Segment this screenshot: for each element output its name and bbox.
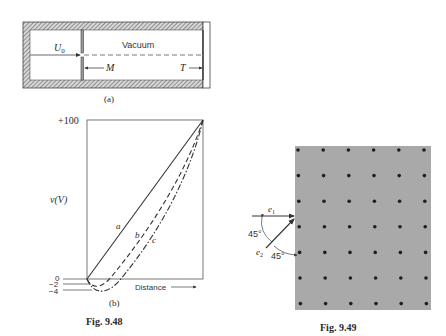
- lattice-atom: [399, 251, 403, 255]
- lattice-atom: [397, 174, 401, 178]
- lattice-atom: [372, 148, 376, 152]
- lattice-atom: [349, 302, 353, 306]
- lattice-atom: [297, 199, 301, 203]
- lattice-atom: [399, 276, 403, 280]
- lattice-atom: [398, 199, 402, 203]
- lattice-atom: [423, 174, 427, 178]
- lattice-atom: [348, 225, 352, 229]
- lattice-atom: [347, 199, 351, 203]
- lattice-atom: [424, 276, 428, 280]
- lattice-atom: [323, 276, 327, 280]
- fig-949-caption: Fig. 9.49: [320, 322, 356, 333]
- x-axis-label: Distance: [135, 283, 167, 292]
- lattice-atom: [297, 174, 301, 178]
- lattice-atom: [374, 302, 378, 306]
- lattice-atom: [298, 251, 302, 255]
- lattice-atom: [423, 199, 427, 203]
- curve-c-label: c: [152, 235, 156, 245]
- figure-canvas: U0 Vacuum M T (a) +100 v(V) 0 −2 −4 a b …: [0, 0, 446, 336]
- beam-e2-arrow-icon: [266, 219, 294, 248]
- mesh-lower: [81, 57, 84, 80]
- lattice-atom: [321, 148, 325, 152]
- panel-a-label: (a): [104, 94, 114, 104]
- lattice-atom: [373, 199, 377, 203]
- lattice-atom: [324, 302, 328, 306]
- y-tick-minus4: −4: [49, 287, 59, 296]
- lattice-atom: [373, 251, 377, 255]
- crystal-lattice-diagram: e1 e2 45° 45°: [248, 146, 431, 310]
- target-plate: [203, 22, 210, 88]
- angle-arc-1: [261, 217, 272, 242]
- lattice-atom: [425, 302, 429, 306]
- panel-b-label: (b): [109, 298, 120, 308]
- lattice-atom: [374, 276, 378, 280]
- lattice-atom: [299, 302, 303, 306]
- lattice-atom: [296, 148, 300, 152]
- y-axis-label: v(V): [50, 194, 68, 206]
- curve-a: [87, 120, 203, 279]
- lattice-atom: [349, 276, 353, 280]
- lattice-atom: [373, 225, 377, 229]
- lattice-atom: [297, 225, 301, 229]
- lattice-atom: [397, 148, 401, 152]
- lattice-atom: [422, 148, 426, 152]
- curve-b-label: b: [135, 230, 140, 240]
- vacuum-label: Vacuum: [122, 40, 154, 50]
- angle-1-label: 45°: [248, 229, 262, 239]
- curve-c: [87, 120, 203, 291]
- lattice-atom: [322, 174, 326, 178]
- fig-948-caption: Fig. 9.48: [86, 316, 122, 327]
- lattice-atom: [399, 302, 403, 306]
- y-tick-100: +100: [58, 115, 79, 126]
- potential-graph: +100 v(V) 0 −2 −4 a b c Distance (b): [49, 115, 203, 308]
- lattice-atom: [322, 199, 326, 203]
- lattice-atom: [347, 174, 351, 178]
- mesh-label: M: [105, 62, 115, 73]
- lattice-atom: [323, 225, 327, 229]
- lattice-atom: [398, 225, 402, 229]
- lattice-atom: [372, 174, 376, 178]
- lattice-atom: [347, 148, 351, 152]
- beam-e2-label: e2: [256, 247, 263, 258]
- curve-b: [87, 120, 203, 286]
- lattice-atom: [348, 251, 352, 255]
- lattice-atom: [298, 276, 302, 280]
- curve-a-label: a: [116, 221, 121, 231]
- crystal-surface: [295, 146, 431, 310]
- beam-e1-label: e1: [268, 204, 275, 215]
- lattice-atom: [423, 225, 427, 229]
- lattice-atom: [323, 251, 327, 255]
- lattice-atom: [424, 251, 428, 255]
- apparatus-diagram: U0 Vacuum M T (a): [23, 22, 210, 104]
- mesh-upper: [81, 30, 84, 53]
- angle-2-label: 45°: [271, 251, 285, 261]
